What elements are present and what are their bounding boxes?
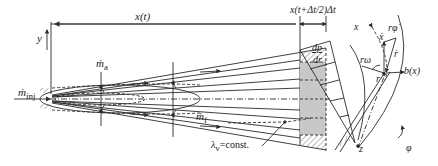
b-vector bbox=[386, 72, 404, 73]
spray-diagram: y x(t) x(t+Δt/2)Δt ṁinj ṁa ṁf λv=const. … bbox=[0, 0, 438, 166]
inj-main: ṁ bbox=[18, 86, 26, 98]
gradient-numerator: dp bbox=[312, 43, 322, 53]
phi-label: φ bbox=[406, 143, 412, 153]
ma-main: ṁ bbox=[96, 57, 104, 69]
r-phi-dot-label: rφ̇ bbox=[388, 23, 397, 33]
cone-upper bbox=[52, 48, 326, 95]
nozzle-wall-bottom bbox=[40, 104, 51, 109]
slice-hatch-bottom bbox=[300, 135, 326, 150]
x-dot-label: ẋ bbox=[379, 32, 383, 42]
z-label: z bbox=[359, 144, 363, 154]
mf-sub: f bbox=[204, 115, 207, 125]
mf-main: ṁ bbox=[196, 110, 204, 122]
x-curve-label: x bbox=[354, 22, 358, 32]
r-label: r bbox=[376, 74, 380, 84]
r-omega-line bbox=[362, 66, 384, 73]
cone-lower bbox=[52, 103, 326, 150]
phi-arrow bbox=[398, 126, 403, 138]
gradient-wedge-right bbox=[330, 41, 355, 143]
slice-label: x(t+Δt/2)Δt bbox=[290, 5, 336, 15]
fuel-mass-flow-label: ṁf bbox=[196, 111, 207, 125]
lambda-rest: =const. bbox=[220, 139, 249, 150]
width-label: b(x) bbox=[404, 66, 420, 76]
entrained-mass-flow-label: ṁa bbox=[96, 58, 108, 72]
x-axis-label: x(t) bbox=[135, 11, 150, 22]
r-dot-label: ṙ bbox=[394, 49, 398, 59]
y-axis-label: y bbox=[37, 33, 42, 44]
gradient-denominator: dr bbox=[313, 55, 322, 65]
ma-sub: a bbox=[104, 62, 108, 72]
spray-jet-panel bbox=[14, 16, 330, 152]
r-omega-label: rω bbox=[360, 55, 371, 65]
injection-mass-flow-label: ṁinj bbox=[18, 87, 35, 101]
inj-sub: inj bbox=[26, 91, 36, 101]
lambda-const-label: λv=const. bbox=[211, 140, 249, 153]
slice-shaded bbox=[300, 62, 326, 135]
